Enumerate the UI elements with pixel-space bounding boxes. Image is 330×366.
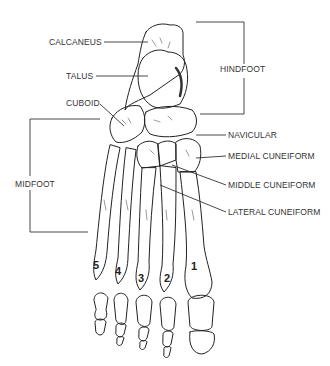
label-talus: TALUS xyxy=(66,71,93,81)
middle-cuneiform-bone xyxy=(158,141,176,166)
label-navicular: NAVICULAR xyxy=(228,130,277,140)
midfoot-bracket xyxy=(30,119,100,232)
metatarsal-4 xyxy=(116,148,136,284)
cuboid-leader xyxy=(100,104,124,126)
digit-number-3: 3 xyxy=(138,272,144,284)
label-middle-cuneiform: MIDDLE CUNEIFORM xyxy=(228,180,316,190)
digit-number-2: 2 xyxy=(164,272,170,284)
digit-number-1: 1 xyxy=(191,260,197,272)
lateral-cuneiform-bone xyxy=(137,141,160,168)
label-lateral-cuneiform: LATERAL CUNEIFORM xyxy=(228,207,320,217)
metatarsal-1 xyxy=(180,172,212,298)
label-cuboid: CUBOID xyxy=(66,98,100,108)
label-medial-cuneiform: MEDIAL CUNEIFORM xyxy=(228,151,315,161)
lateral-cuneiform-leader xyxy=(160,185,226,212)
region-midfoot: MIDFOOT xyxy=(15,179,55,189)
digit-number-4: 4 xyxy=(115,265,121,277)
label-calcaneus: CALCANEUS xyxy=(49,37,102,47)
navicular-bone xyxy=(144,106,196,136)
region-hindfoot: HINDFOOT xyxy=(220,64,265,74)
cuboid-bone xyxy=(110,106,145,143)
digit-number-5: 5 xyxy=(93,259,99,271)
